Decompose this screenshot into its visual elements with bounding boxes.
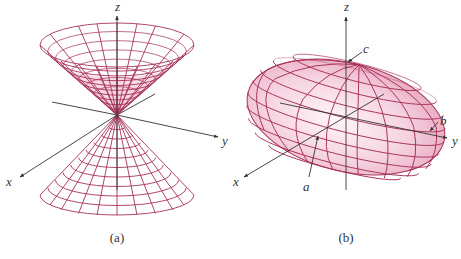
caption-a: (a): [110, 230, 124, 245]
caption-b: (b): [338, 230, 353, 245]
c-label: c: [363, 41, 369, 56]
x-axis: [20, 115, 117, 177]
figure-a-double-cone: z y x (a): [5, 0, 228, 245]
x-axis-label: x: [5, 174, 12, 189]
a-label: a: [303, 179, 310, 194]
c-pointer: [348, 52, 362, 62]
figure-canvas: z y x (a): [0, 0, 461, 259]
x-axis-label: x: [232, 174, 239, 189]
z-axis-label: z: [114, 0, 120, 14]
y-axis-label: y: [450, 133, 458, 148]
z-axis-label: z: [343, 0, 349, 14]
b-label: b: [440, 113, 447, 128]
y-axis-label: y: [220, 133, 228, 148]
figure-b-ellipsoid: z y x c b a (b): [232, 0, 458, 245]
y-axis: [117, 115, 218, 137]
